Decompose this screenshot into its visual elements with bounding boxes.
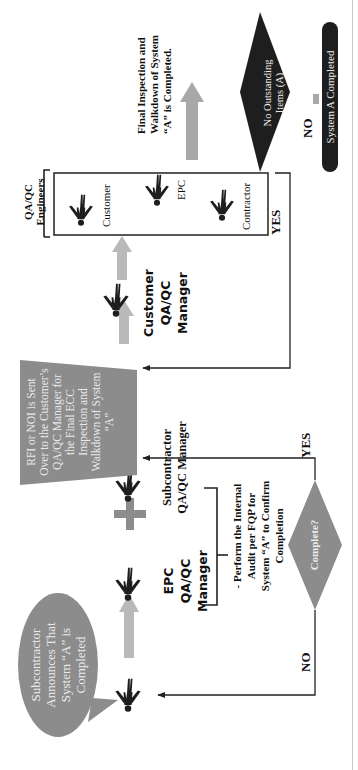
progress-arrow-4	[180, 82, 204, 160]
terminal-label: System A Completed	[323, 22, 337, 172]
engineer-epc-person-icon	[145, 175, 169, 206]
plus-icon	[114, 498, 146, 530]
engineer-member-contractor: Contractor	[240, 183, 252, 230]
audit-note-text: - Perform the Internal Audit per FQP for…	[230, 480, 286, 592]
page-edge-rule	[352, 0, 353, 770]
engineers-group-box	[54, 173, 268, 235]
final-inspection-note: Final Inspection and Walkdown of System …	[135, 24, 174, 134]
epc-manager-person-icon	[115, 568, 140, 601]
complete-decision-label: Complete?	[308, 510, 320, 580]
subcontractor-person-icon	[115, 679, 140, 712]
rfi-trapezoid-text: RFI or NOI is Sent Over to the Customer’…	[25, 366, 116, 478]
flowchart-canvas: Subcontractor Announces That System “A” …	[0, 0, 358, 770]
edge-label-yes-mid: YES	[298, 433, 314, 458]
engineer-contractor-person-icon	[210, 190, 234, 221]
edge-outstanding-to-terminal	[313, 94, 319, 104]
engineer-member-customer: Customer	[100, 184, 112, 227]
speech-bubble-text: Subcontractor Announces That System “A” …	[28, 605, 88, 725]
subcontractor-manager-label: Subcontractor QA/QC Manager	[160, 415, 190, 520]
engineer-customer-person-icon	[69, 195, 93, 226]
outstanding-decision-label: No Outstanding Items (A)	[262, 52, 286, 134]
edge-label-no-right: NO	[300, 119, 316, 139]
customer-manager-label: Customer QA/QC Manager	[140, 258, 191, 348]
progress-arrow-3	[112, 236, 132, 280]
epc-manager-label: EPC QA/QC Manager	[160, 550, 211, 612]
edge-label-no-left: NO	[298, 653, 314, 673]
engineers-group-title: QA/QC Engineers	[22, 169, 46, 235]
engineer-member-epc: EPC	[175, 180, 187, 200]
edge-label-yes-right: YES	[268, 210, 284, 235]
edge-no-to-subcontractor	[158, 610, 315, 695]
progress-arrow-1	[119, 594, 139, 658]
